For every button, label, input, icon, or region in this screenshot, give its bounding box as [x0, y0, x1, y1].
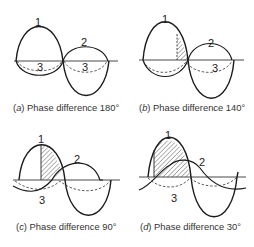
wave-3-label: 3 [37, 61, 43, 73]
wave-2-label: 2 [208, 37, 214, 49]
wave-2-label: 2 [81, 36, 87, 48]
caption-b: (b) Phase difference 140° [139, 102, 246, 113]
panel-b: 1 2 3 (b) Phase difference 140° [139, 13, 246, 113]
wave-1-label: 1 [165, 129, 171, 141]
wave-1-label: 1 [38, 133, 44, 145]
wave-2-label: 2 [199, 156, 205, 168]
wave-2-label: 2 [74, 153, 80, 165]
panel-a: 1 2 3 3 (a) Phase difference 180° [13, 16, 120, 113]
caption-c: (c) Phase difference 90° [16, 221, 117, 232]
wave-3-label: 3 [39, 194, 45, 206]
phase-difference-figure: 1 2 3 3 (a) Phase difference 180° 1 2 3 … [0, 0, 254, 247]
caption-a: (a) Phase difference 180° [13, 102, 120, 113]
hatched-area [154, 141, 190, 177]
wave-3-label: 3 [212, 62, 218, 74]
panel-c: 1 2 3 (c) Phase difference 90° [13, 133, 120, 232]
wave-1-label: 1 [162, 13, 168, 25]
caption-d: (d) Phase difference 30° [140, 221, 241, 232]
wave-3 [148, 176, 238, 187]
hatched-area [41, 145, 62, 180]
panel-d: 1 2 3 (d) Phase difference 30° [139, 129, 246, 232]
wave-3-label: 3 [171, 192, 177, 204]
wave-3 [15, 181, 110, 191]
wave-1-label: 1 [35, 16, 41, 28]
wave-3-label: 3 [82, 61, 88, 73]
